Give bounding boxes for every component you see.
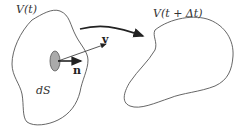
normal-label: n (73, 64, 81, 77)
volume-initial-label: V(t) (16, 3, 37, 16)
surface-element-label: dS (36, 84, 51, 97)
volume-later-label: V(t + Δt) (153, 7, 203, 20)
control-volume-diagram: V(t) V(t + Δt) dS v n (0, 0, 246, 129)
transition-arrow (80, 26, 143, 36)
velocity-arrow (58, 44, 106, 61)
velocity-label: v (101, 33, 109, 46)
volume-later-outline (124, 17, 233, 107)
